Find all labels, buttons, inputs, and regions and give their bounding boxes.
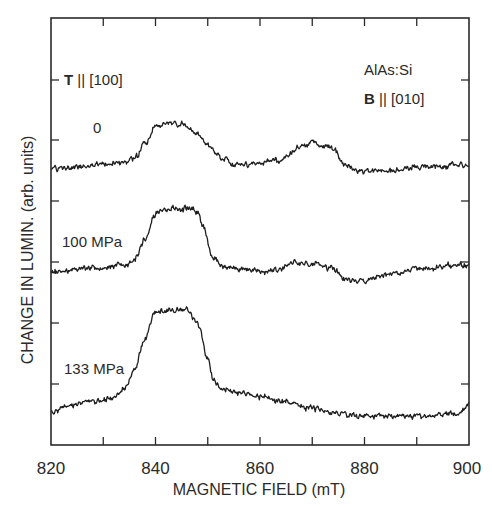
stress-direction-annotation: T || [100] (64, 71, 123, 88)
chart-figure: 820 840 860 880 900 MAGNETIC FIELD (mT) … (0, 0, 492, 507)
x-tick-label-860: 860 (246, 459, 274, 478)
field-direction-annotation: B || [010] (364, 90, 424, 107)
stress-direction-text: || [100] (73, 71, 123, 88)
series-label-133-mpa: 133 MPa (64, 360, 125, 377)
sample-annotation: AlAs:Si (364, 61, 412, 78)
stress-symbol: T (64, 71, 73, 88)
y-axis-title: CHANGE IN LUMIN. (arb. units) (19, 136, 36, 364)
x-tick-label-880: 880 (350, 459, 378, 478)
x-tick-label-840: 840 (141, 459, 169, 478)
field-symbol: B (364, 90, 375, 107)
x-axis-title: MAGNETIC FIELD (mT) (173, 481, 345, 498)
series-label-0-mpa: 0 (93, 119, 101, 136)
series-label-100-mpa: 100 MPa (62, 233, 123, 250)
field-direction-text: || [010] (375, 90, 425, 107)
x-tick-label-900: 900 (453, 459, 481, 478)
x-tick-label-820: 820 (37, 459, 65, 478)
